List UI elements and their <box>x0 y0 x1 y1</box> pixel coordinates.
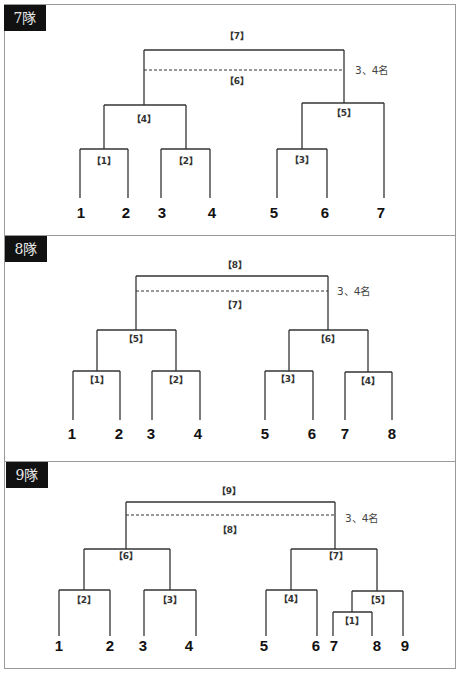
team-seed: 8 <box>373 637 381 654</box>
match-label: 【7】 <box>324 551 348 561</box>
team-seed: 2 <box>106 637 114 654</box>
match-label: 【4】 <box>279 594 303 604</box>
third-place-label: 3、4名 <box>345 512 378 524</box>
team-seed: 7 <box>330 637 338 654</box>
match-label: 【2】 <box>72 595 96 605</box>
match-label: 【6】 <box>114 551 138 561</box>
team-seed: 1 <box>55 637 63 654</box>
team-seed: 9 <box>401 637 409 654</box>
match-label: 【8】 <box>218 525 242 535</box>
team-seed: 3 <box>139 637 147 654</box>
match-label: 【1】 <box>340 616 364 626</box>
bracket-9-teams: 【9】 【8】 【6】 【7】 【2】 【3】 【4】 【5】 【1】 3、4名… <box>0 0 460 673</box>
team-seed: 6 <box>312 637 320 654</box>
team-seed: 4 <box>185 637 194 654</box>
team-seed: 5 <box>260 637 268 654</box>
match-label: 【3】 <box>158 595 182 605</box>
match-label: 【5】 <box>366 595 390 605</box>
match-label: 【9】 <box>217 486 241 496</box>
